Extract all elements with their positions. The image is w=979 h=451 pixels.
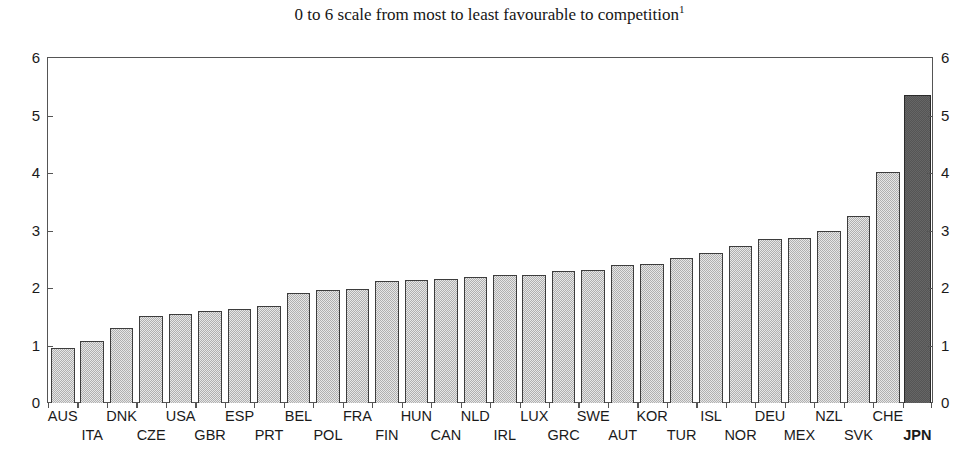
y-tick-label-left-0: 0 xyxy=(14,396,40,410)
x-axis-label-che[interactable]: CHE xyxy=(873,408,904,425)
x-axis-label-pol[interactable]: POL xyxy=(313,427,342,444)
category-slot: GRC xyxy=(549,408,578,450)
x-axis-label-prt[interactable]: PRT xyxy=(255,427,284,444)
y-tick-mark xyxy=(927,231,933,232)
bar-fra[interactable] xyxy=(346,289,370,403)
y-tick-label-right-2: 2 xyxy=(941,281,967,295)
bar-dnk[interactable] xyxy=(110,328,134,403)
category-slot: CHE xyxy=(873,408,902,450)
x-axis-label-grc[interactable]: GRC xyxy=(548,427,580,444)
x-axis-label-jpn[interactable]: JPN xyxy=(903,427,931,444)
x-axis-label-fra[interactable]: FRA xyxy=(343,408,372,425)
x-axis-label-nor[interactable]: NOR xyxy=(724,427,756,444)
x-axis-label-ita[interactable]: ITA xyxy=(81,427,102,444)
bar-ita[interactable] xyxy=(80,341,104,403)
bar-hun[interactable] xyxy=(405,280,429,403)
category-slot: IRL xyxy=(490,408,519,450)
bar-jpn[interactable] xyxy=(904,95,931,403)
x-axis-label-nld[interactable]: NLD xyxy=(461,408,490,425)
x-axis-label-kor[interactable]: KOR xyxy=(636,408,667,425)
x-axis-label-swe[interactable]: SWE xyxy=(577,408,610,425)
bar-deu[interactable] xyxy=(758,239,782,403)
bar-lux[interactable] xyxy=(522,275,546,403)
chart-title-text: 0 to 6 scale from most to least favourab… xyxy=(295,5,679,24)
x-axis-label-fin[interactable]: FIN xyxy=(375,427,398,444)
bar-slot xyxy=(313,58,342,403)
category-slot: TUR xyxy=(667,408,696,450)
bar-nzl[interactable] xyxy=(817,231,841,403)
x-axis-label-tur[interactable]: TUR xyxy=(667,427,697,444)
bar-svk[interactable] xyxy=(847,216,871,403)
bar-tur[interactable] xyxy=(670,258,694,403)
x-axis-label-esp[interactable]: ESP xyxy=(225,408,254,425)
bar-aut[interactable] xyxy=(611,265,635,403)
bar-bel[interactable] xyxy=(287,293,311,403)
category-slot: DNK xyxy=(107,408,136,450)
x-axis-label-irl[interactable]: IRL xyxy=(493,427,516,444)
x-axis-label-nzl[interactable]: NZL xyxy=(815,408,842,425)
x-axis-label-hun[interactable]: HUN xyxy=(401,408,432,425)
y-tick-mark xyxy=(47,231,53,232)
bar-slot xyxy=(372,58,401,403)
bar-grc[interactable] xyxy=(552,271,576,403)
bar-slot xyxy=(755,58,784,403)
bar-isl[interactable] xyxy=(699,253,723,403)
x-axis-label-gbr[interactable]: GBR xyxy=(194,427,225,444)
bar-slot xyxy=(490,58,519,403)
y-tick-label-left-1: 1 xyxy=(14,339,40,353)
bar-aus[interactable] xyxy=(51,348,75,403)
bar-kor[interactable] xyxy=(640,264,664,403)
x-axis-label-cze[interactable]: CZE xyxy=(137,427,166,444)
x-axis-label-svk[interactable]: SVK xyxy=(844,427,873,444)
bar-cze[interactable] xyxy=(139,316,163,403)
bar-slot xyxy=(549,58,578,403)
bar-che[interactable] xyxy=(876,172,900,403)
bar-slot xyxy=(136,58,165,403)
category-slot: CAN xyxy=(431,408,460,450)
x-axis-label-can[interactable]: CAN xyxy=(431,427,462,444)
x-axis-label-isl[interactable]: ISL xyxy=(700,408,722,425)
bar-mex[interactable] xyxy=(788,238,812,403)
chart-title-footnote-marker: 1 xyxy=(679,3,685,15)
y-tick-mark xyxy=(47,346,53,347)
y-axis-left: 0123456 xyxy=(14,58,40,403)
chart-title: 0 to 6 scale from most to least favourab… xyxy=(0,4,979,26)
category-slot: KOR xyxy=(637,408,666,450)
y-tick-label-right-4: 4 xyxy=(941,166,967,180)
bar-gbr[interactable] xyxy=(198,311,222,403)
bar-slot xyxy=(814,58,843,403)
category-slot: SVK xyxy=(844,408,873,450)
y-tick-label-right-1: 1 xyxy=(941,339,967,353)
category-slot: AUS xyxy=(48,408,77,450)
bar-usa[interactable] xyxy=(169,314,193,403)
x-axis-label-aus[interactable]: AUS xyxy=(48,408,78,425)
bar-nld[interactable] xyxy=(464,277,488,403)
bar-slot xyxy=(608,58,637,403)
y-tick-mark xyxy=(927,346,933,347)
bar-slot xyxy=(195,58,224,403)
bar-can[interactable] xyxy=(434,279,458,403)
category-slot: HUN xyxy=(402,408,431,450)
category-slot: NZL xyxy=(814,408,843,450)
category-slot: BEL xyxy=(284,408,313,450)
x-axis-label-usa[interactable]: USA xyxy=(166,408,196,425)
bar-slot xyxy=(284,58,313,403)
bar-fin[interactable] xyxy=(375,281,399,403)
y-tick-label-right-3: 3 xyxy=(941,224,967,238)
bar-irl[interactable] xyxy=(493,275,517,403)
bar-slot xyxy=(726,58,755,403)
x-axis-label-aut[interactable]: AUT xyxy=(608,427,637,444)
x-axis-label-deu[interactable]: DEU xyxy=(755,408,786,425)
x-axis-label-lux[interactable]: LUX xyxy=(520,408,548,425)
x-axis-label-dnk[interactable]: DNK xyxy=(106,408,137,425)
bar-esp[interactable] xyxy=(228,309,252,403)
x-axis-label-bel[interactable]: BEL xyxy=(285,408,312,425)
bar-nor[interactable] xyxy=(729,246,753,403)
bar-prt[interactable] xyxy=(257,306,281,403)
category-slot: POL xyxy=(313,408,342,450)
bar-pol[interactable] xyxy=(316,290,340,403)
bar-slot xyxy=(77,58,106,403)
x-axis-label-mex[interactable]: MEX xyxy=(784,427,815,444)
bar-swe[interactable] xyxy=(581,270,605,403)
y-tick-mark xyxy=(47,288,53,289)
